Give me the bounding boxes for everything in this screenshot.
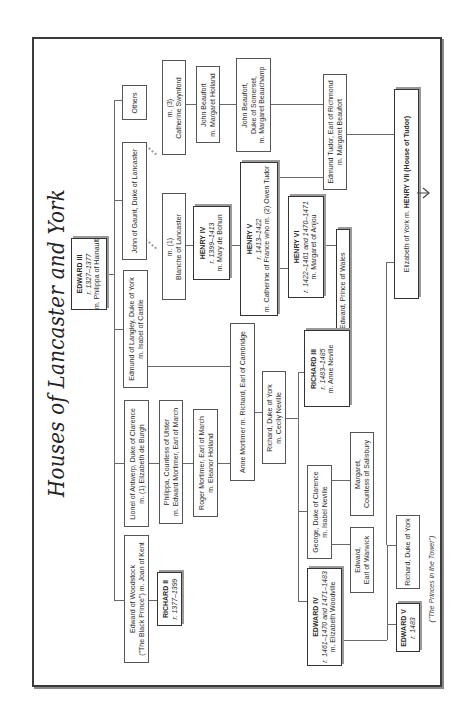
label: Others bbox=[130, 92, 137, 113]
label: Lionel of Antwerp, Duke of Clarence bbox=[128, 408, 135, 520]
connector bbox=[114, 100, 115, 600]
label: Anne Mortimer m. Richard, Earl of Cambri… bbox=[238, 331, 245, 473]
connector bbox=[342, 640, 387, 641]
person-john-beaufort[interactable]: John Beaufortm. Margaret Holland bbox=[196, 66, 220, 143]
person-elizabeth-of-york-henry-vii[interactable]: Elizabeth of York m. HENRY VII (House of… bbox=[394, 89, 419, 299]
spouse: ("The Black Prince") m. Joan of Kent bbox=[137, 542, 144, 656]
king-name: HENRY VII (House of Tudor) bbox=[402, 116, 409, 208]
connector bbox=[148, 463, 159, 464]
person-edward-iv[interactable]: EDWARD IVr. 1461–1470 and 1471–1483m. El… bbox=[307, 568, 342, 666]
label: Richard, Duke of York bbox=[266, 384, 273, 452]
connector bbox=[114, 463, 124, 464]
connector bbox=[230, 245, 240, 246]
marriage-label: m. (1) bbox=[166, 237, 173, 255]
person-richard-duke-of-york[interactable]: Richard, Duke of Yorkm. Cecily Neville bbox=[262, 371, 286, 464]
person-john-of-gaunt[interactable]: John of Gaunt, Duke of Lancaster bbox=[122, 142, 147, 260]
person-edward-of-woodstock[interactable]: Edward of Woodstock("The Black Prince") … bbox=[124, 535, 149, 663]
connector bbox=[114, 100, 122, 101]
connector bbox=[220, 104, 236, 105]
person-lionel-of-antwerp[interactable]: Lionel of Antwerp, Duke of Clarencem. (1… bbox=[124, 400, 149, 527]
reign-dates: r. 1413–1422 bbox=[255, 219, 262, 260]
reign-dates: r. 1483–1485 bbox=[319, 348, 326, 389]
person-anne-mortimer[interactable]: Anne Mortimer m. Richard, Earl of Cambri… bbox=[230, 323, 255, 481]
reign-dates: r. 1461–1470 and 1471–1483 bbox=[320, 571, 327, 663]
connector bbox=[278, 268, 288, 269]
person-edward-earl-of-warwick[interactable]: Edward,Earl of Warwick bbox=[350, 527, 374, 593]
reign-dates: r. 1377–1399 bbox=[170, 579, 177, 620]
person-richard-ii[interactable]: RICHARD IIr. 1377–1399 bbox=[157, 572, 182, 626]
spouse: m. Margaret Beauchamp bbox=[258, 66, 265, 143]
spouse: m. Elizabeth Woodville bbox=[329, 582, 336, 653]
person-margaret-countess-of-salisbury[interactable]: Margaret,Countess of Salisbury bbox=[350, 432, 374, 516]
person-edmund-of-langley[interactable]: Edmund of Langley, Duke of Yorkm. Isabel… bbox=[123, 270, 148, 388]
connector bbox=[271, 104, 323, 105]
label: Blanche of Lancaster bbox=[174, 214, 181, 280]
spouse: m. Margaret Beaufort bbox=[335, 99, 342, 165]
reign-dates: r. 1483 bbox=[408, 617, 415, 639]
label: John Beaufort bbox=[200, 83, 207, 127]
title: Earl of Warwick bbox=[362, 536, 369, 584]
person-richard-iii[interactable]: RICHARD IIIr. 1483–1485m. Anne Neville bbox=[304, 330, 350, 407]
connector bbox=[298, 372, 299, 602]
person-henry-vi[interactable]: HENRY VIr. 1422–1461 and 1470–1471m. Mar… bbox=[288, 196, 324, 298]
label: Margaret, bbox=[354, 459, 361, 489]
connector bbox=[114, 600, 124, 601]
person-roger-mortimer[interactable]: Roger Mortimer, Earl of Marchm. Eleanor … bbox=[193, 409, 218, 517]
label: Richard, Duke of York bbox=[404, 518, 411, 586]
spouse: m. Isabel Neville bbox=[320, 486, 327, 537]
title: Countess of Salisbury bbox=[362, 440, 369, 508]
king-name: EDWARD IV bbox=[312, 597, 319, 637]
connector bbox=[147, 366, 230, 367]
connector bbox=[332, 480, 350, 481]
label: Philippa, Countess of Ulster bbox=[163, 419, 170, 505]
connector bbox=[107, 274, 114, 275]
connector bbox=[324, 245, 336, 246]
person-richard-duke-of-york-younger[interactable]: Richard, Duke of York bbox=[396, 515, 420, 589]
princes-in-tower-caption: ("The Princes in the Tower") bbox=[426, 524, 438, 634]
person-george-duke-of-clarence[interactable]: George, Duke of Clarencem. Isabel Nevill… bbox=[307, 465, 332, 559]
person-edmund-tudor[interactable]: Edmund Tudor, Earl of Richmondm. Margare… bbox=[323, 74, 347, 190]
spouse: m. Cecily Neville bbox=[274, 392, 281, 444]
person-others[interactable]: Others bbox=[122, 85, 147, 120]
king-name: EDWARD III bbox=[76, 255, 83, 294]
connector bbox=[278, 177, 323, 178]
person-catherine-swynford[interactable]: m. (3)Catherine Swynford bbox=[162, 60, 186, 155]
person-henry-iv[interactable]: HENRY IVr. 1399–1413m. Mary de Bohun bbox=[193, 206, 230, 280]
person-edward-iii[interactable]: EDWARD IIIr. 1327–1377m. Philippa of Hai… bbox=[71, 238, 107, 310]
label: John Beaufort, bbox=[241, 82, 248, 128]
person-henry-v[interactable]: HENRY Vr. 1413–1422m. Catherine of Franc… bbox=[240, 162, 278, 316]
connector bbox=[298, 601, 307, 602]
spouse: m. Mary de Bohun bbox=[216, 214, 223, 271]
connector bbox=[386, 262, 387, 545]
spouse: m. Margaret of Anjou bbox=[310, 215, 317, 280]
person-john-beaufort-duke-of-somerset[interactable]: John Beaufort,Duke of Somerset,m. Margar… bbox=[236, 58, 271, 152]
connector bbox=[218, 463, 230, 464]
connector bbox=[298, 511, 307, 512]
connector bbox=[255, 412, 262, 413]
connector bbox=[387, 545, 388, 640]
spouse: m. Isabel of Castile bbox=[136, 299, 143, 359]
label: Edmund Tudor, Earl of Richmond bbox=[327, 80, 334, 183]
king-name: RICHARD III bbox=[311, 348, 318, 388]
title-text: Houses of Lancaster and York bbox=[45, 188, 69, 496]
spouse: m. Edward Mortimer, Earl of March bbox=[171, 408, 178, 516]
spouse: m. Philippa of Hainault bbox=[93, 239, 100, 309]
title: Duke of Somerset, bbox=[249, 76, 256, 134]
continuation-arrow-icon bbox=[417, 186, 431, 200]
connector bbox=[186, 104, 196, 105]
spouse: m. Anne Neville bbox=[328, 344, 335, 393]
label: Roger Mortimer, Earl of March bbox=[197, 416, 204, 510]
person-edward-v[interactable]: EDWARD Vr. 1483 bbox=[396, 603, 420, 652]
connector bbox=[186, 245, 193, 246]
connector bbox=[386, 262, 394, 263]
label: Catherine Swynford bbox=[174, 77, 181, 138]
king-name: HENRY IV bbox=[199, 227, 206, 260]
spouse: m. Eleanor Holland bbox=[206, 433, 213, 493]
king-name: HENRY V bbox=[246, 224, 253, 255]
connector bbox=[332, 544, 350, 545]
connector bbox=[149, 600, 157, 601]
person-blanche-of-lancaster[interactable]: m. (1)Blanche of Lancaster bbox=[162, 193, 186, 300]
connector bbox=[114, 200, 122, 201]
label: Edmund of Langley, Duke of York bbox=[127, 277, 134, 380]
person-philippa-countess-of-ulster[interactable]: Philippa, Countess of Ulsterm. Edward Mo… bbox=[159, 400, 183, 524]
